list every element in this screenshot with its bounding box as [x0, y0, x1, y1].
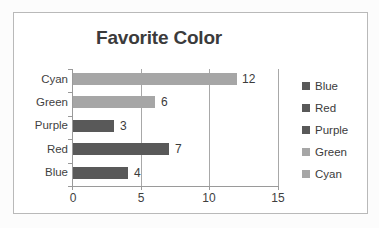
legend-swatch-icon: [302, 104, 310, 112]
bar-value-cyan: 12: [242, 72, 255, 86]
category-axis-labels: Cyan Green Purple Red Blue: [14, 13, 68, 215]
bar-value-blue: 4: [134, 166, 141, 180]
legend-swatch-icon: [302, 82, 310, 90]
bar-value-purple: 3: [120, 119, 127, 133]
gridline-5: [141, 69, 142, 186]
legend-item-purple: Purple: [302, 119, 366, 141]
gridline-10: [209, 69, 210, 186]
bar-blue: [73, 167, 128, 179]
legend-swatch-icon: [302, 170, 310, 178]
legend-label-green: Green: [315, 146, 347, 158]
legend-item-blue: Blue: [302, 75, 366, 97]
x-axis-label-10: 10: [194, 191, 224, 205]
bar-value-red: 7: [175, 142, 182, 156]
x-axis-tick: [278, 186, 279, 190]
gridline-15: [278, 69, 279, 186]
bar-cyan: [73, 73, 237, 85]
category-label-cyan: Cyan: [16, 73, 68, 85]
x-axis-label-15: 15: [263, 191, 293, 205]
x-axis-line: [72, 186, 279, 187]
bar-purple: [73, 120, 114, 132]
legend-label-blue: Blue: [315, 80, 338, 92]
chart-container: Favorite Color Cyan Green Purple Red Blu…: [13, 12, 368, 214]
x-axis-tick: [209, 186, 210, 190]
legend-label-red: Red: [315, 102, 336, 114]
legend-swatch-icon: [302, 126, 310, 134]
legend-item-red: Red: [302, 97, 366, 119]
legend-swatch-icon: [302, 148, 310, 156]
x-axis-label-0: 0: [58, 191, 88, 205]
legend-label-purple: Purple: [315, 124, 348, 136]
legend-item-cyan: Cyan: [302, 163, 366, 185]
legend-item-green: Green: [302, 141, 366, 163]
x-axis-tick: [141, 186, 142, 190]
bar-green: [73, 96, 155, 108]
category-label-blue: Blue: [16, 166, 68, 178]
bar-value-green: 6: [161, 95, 168, 109]
x-axis-tick: [72, 186, 73, 190]
bar-red: [73, 143, 169, 155]
legend-label-cyan: Cyan: [315, 168, 342, 180]
category-label-purple: Purple: [16, 119, 68, 131]
chart-legend: Blue Red Purple Green Cyan: [302, 75, 366, 185]
category-label-red: Red: [16, 143, 68, 155]
x-axis-label-5: 5: [126, 191, 156, 205]
category-label-green: Green: [16, 96, 68, 108]
